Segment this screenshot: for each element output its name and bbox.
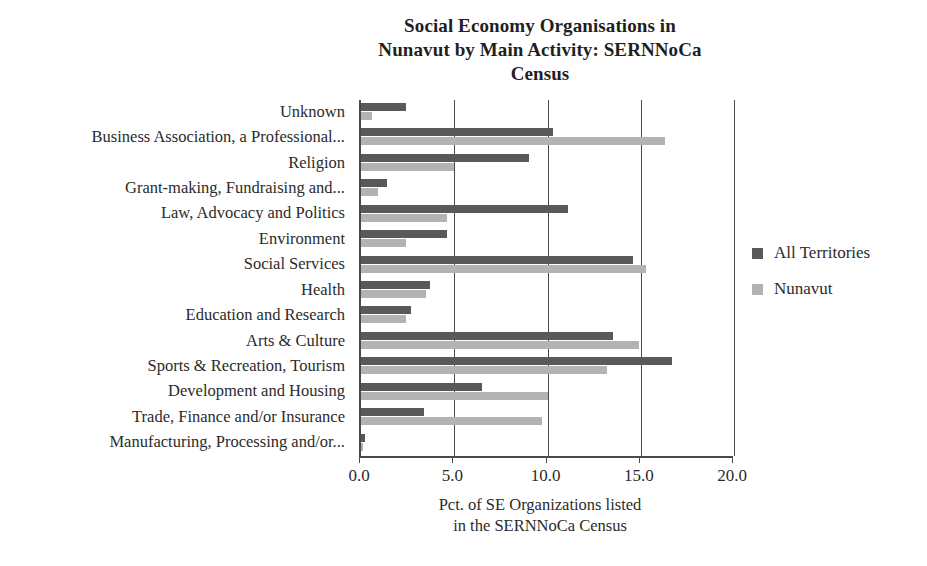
x-axis-tick — [452, 456, 453, 463]
bar-group — [361, 151, 734, 176]
x-axis-title-line-2: in the SERNNoCa Census — [330, 515, 750, 536]
bar — [361, 188, 378, 196]
bar-group — [361, 202, 734, 227]
bar — [361, 408, 424, 416]
x-axis-title: Pct. of SE Organizations listed in the S… — [330, 494, 750, 536]
bar — [361, 315, 406, 323]
bar-group — [361, 100, 734, 125]
bar-group — [361, 405, 734, 430]
x-axis-tick — [546, 456, 547, 463]
y-axis-label: Health — [0, 282, 345, 298]
plot-area — [359, 100, 732, 456]
y-axis-label: Unknown — [0, 104, 345, 120]
bar-group — [361, 354, 734, 379]
legend-label: Nunavut — [774, 280, 833, 298]
chart-legend: All TerritoriesNunavut — [752, 244, 922, 316]
legend-label: All Territories — [774, 244, 870, 262]
y-axis-label: Law, Advocacy and Politics — [0, 205, 345, 221]
bar — [361, 214, 447, 222]
bar — [361, 128, 553, 136]
bar-group — [361, 303, 734, 328]
bar — [361, 112, 372, 120]
bar — [361, 281, 430, 289]
chart-title-line-2: Nunavut by Main Activity: SERNNoCa — [330, 38, 750, 62]
y-axis-label: Business Association, a Professional... — [0, 129, 345, 145]
bar — [361, 341, 639, 349]
y-axis-label: Development and Housing — [0, 383, 345, 399]
x-axis-tick-label: 0.0 — [324, 466, 394, 486]
chart-title-line-1: Social Economy Organisations in — [330, 14, 750, 38]
y-axis-label: Religion — [0, 155, 345, 171]
bar — [361, 230, 447, 238]
x-axis-tick-label: 5.0 — [417, 466, 487, 486]
bar — [361, 239, 406, 247]
legend-item: Nunavut — [752, 280, 922, 298]
bar-group — [361, 329, 734, 354]
bar — [361, 417, 542, 425]
x-axis-title-line-1: Pct. of SE Organizations listed — [330, 494, 750, 515]
bar-group — [361, 278, 734, 303]
legend-item: All Territories — [752, 244, 922, 262]
bar-group — [361, 380, 734, 405]
x-axis-tick — [359, 456, 360, 463]
bar — [361, 290, 426, 298]
bar — [361, 332, 613, 340]
legend-swatch-icon — [752, 284, 763, 295]
bar — [361, 265, 646, 273]
x-axis-tick-label: 15.0 — [604, 466, 674, 486]
bar — [361, 103, 406, 111]
y-axis-label: Social Services — [0, 256, 345, 272]
x-axis-tick-label: 20.0 — [697, 466, 767, 486]
bar — [361, 256, 633, 264]
x-axis-tick — [732, 456, 733, 463]
bar — [361, 137, 665, 145]
y-axis-label: Sports & Recreation, Tourism — [0, 358, 345, 374]
bar-group — [361, 431, 734, 456]
bar — [361, 366, 607, 374]
y-axis-label: Arts & Culture — [0, 333, 345, 349]
bar — [361, 179, 387, 187]
y-axis-label: Grant-making, Fundraising and... — [0, 180, 345, 196]
legend-swatch-icon — [752, 248, 763, 259]
bar — [361, 205, 568, 213]
bar — [361, 383, 482, 391]
bar — [361, 357, 672, 365]
x-axis-tick — [639, 456, 640, 463]
bar-group — [361, 227, 734, 252]
y-axis-label: Trade, Finance and/or Insurance — [0, 409, 345, 425]
bar-group — [361, 253, 734, 278]
bar — [361, 443, 363, 451]
bar — [361, 434, 365, 442]
gridline — [734, 100, 735, 456]
y-axis-label: Education and Research — [0, 307, 345, 323]
bar — [361, 392, 548, 400]
y-axis-label: Manufacturing, Processing and/or... — [0, 434, 345, 450]
chart-title: Social Economy Organisations in Nunavut … — [330, 14, 750, 86]
bar — [361, 163, 454, 171]
bar — [361, 306, 411, 314]
y-axis-label: Environment — [0, 231, 345, 247]
bar-chart: Social Economy Organisations in Nunavut … — [0, 0, 927, 566]
bar-group — [361, 176, 734, 201]
chart-title-line-3: Census — [330, 62, 750, 86]
y-axis-labels: UnknownBusiness Association, a Professio… — [0, 100, 352, 456]
bar — [361, 154, 529, 162]
x-axis-tick-label: 10.0 — [511, 466, 581, 486]
bar-group — [361, 125, 734, 150]
